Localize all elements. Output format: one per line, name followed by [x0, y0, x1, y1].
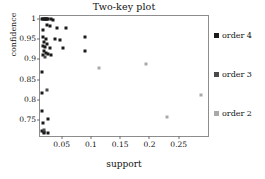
- data-point: [41, 122, 44, 125]
- legend-item[interactable]: order 4: [214, 30, 265, 40]
- data-point: [65, 26, 68, 29]
- data-point: [62, 47, 65, 50]
- legend-label: order 3: [222, 70, 252, 79]
- x-tick-mark: [149, 136, 150, 139]
- x-tick-mark: [61, 136, 62, 139]
- data-point: [43, 46, 46, 49]
- plot-area: 0.750.80.850.90.951 0.050.10.150.20.25: [39, 15, 209, 137]
- legend-label: order 4: [222, 31, 252, 40]
- data-point: [53, 37, 56, 40]
- data-point: [49, 25, 52, 28]
- x-axis-label: support: [39, 159, 209, 169]
- data-point: [49, 46, 52, 49]
- data-point: [165, 115, 168, 118]
- chart-title: Two-key plot: [39, 1, 209, 12]
- data-point: [51, 18, 54, 21]
- data-point: [58, 38, 61, 41]
- x-tick-mark: [120, 136, 121, 139]
- legend-item[interactable]: order 3: [214, 69, 265, 79]
- data-point: [41, 110, 44, 113]
- data-point: [41, 92, 44, 95]
- data-point: [46, 43, 49, 46]
- data-point: [43, 128, 46, 131]
- data-point: [46, 118, 49, 121]
- x-tick-mark: [178, 136, 179, 139]
- data-point: [56, 27, 59, 30]
- legend-swatch-icon: [214, 72, 219, 77]
- data-point: [41, 29, 44, 32]
- legend-item[interactable]: order 2: [214, 108, 265, 118]
- data-point: [43, 56, 46, 59]
- data-point: [41, 70, 44, 73]
- legend-swatch-icon: [214, 111, 219, 116]
- y-axis-label: confidence: [9, 0, 18, 75]
- data-point: [144, 63, 147, 66]
- x-tick-mark: [90, 136, 91, 139]
- data-point: [46, 131, 49, 134]
- legend-label: order 2: [222, 109, 252, 118]
- legend: order 4order 3order 2: [214, 30, 265, 147]
- data-point: [45, 89, 48, 92]
- chart-container: Two-key plot 0.750.80.850.90.951 0.050.1…: [0, 0, 265, 179]
- data-point: [49, 54, 52, 57]
- data-points-layer: [40, 16, 208, 136]
- data-point: [200, 93, 203, 96]
- data-point: [83, 50, 86, 53]
- legend-swatch-icon: [214, 33, 219, 38]
- data-point: [98, 66, 101, 69]
- data-point: [84, 35, 87, 38]
